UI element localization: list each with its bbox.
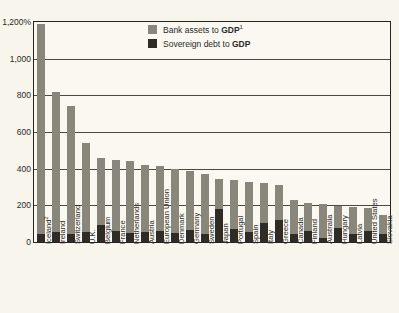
- bar-group: [304, 22, 312, 242]
- y-tick-label-400: 400: [0, 164, 31, 174]
- bar-group: [186, 22, 194, 242]
- y-tick-label-600: 600: [0, 127, 31, 137]
- bank-assets-sovereign-debt-chart: 02004006008001,0001,200% Bank assets to …: [0, 0, 399, 313]
- y-tick-label-200: 200: [0, 200, 31, 210]
- bar-group: [245, 22, 253, 242]
- bar-group: [37, 22, 45, 242]
- y-tick-label-0: 0: [0, 237, 31, 247]
- bar-group: [379, 22, 387, 242]
- bar-bank-assets: [82, 143, 90, 242]
- legend-label-sovereign-debt: Sovereign debt to GDP: [163, 39, 250, 49]
- bar-bank-assets: [52, 92, 60, 242]
- bar-group: [215, 22, 223, 242]
- bar-group: [171, 22, 179, 242]
- y-tick-label-1200: 1,200%: [0, 17, 31, 27]
- bar-group: [112, 22, 120, 242]
- bar-group: [290, 22, 298, 242]
- bar-group: [82, 22, 90, 242]
- bar-bank-assets: [37, 24, 45, 242]
- bar-group: [52, 22, 60, 242]
- x-axis-labels: Iceland2IrelandSwitzerlandU.K.BelgiumFra…: [34, 244, 390, 313]
- chart-legend: Bank assets to GDP1 Sovereign debt to GD…: [148, 24, 250, 49]
- bar-group: [141, 22, 149, 242]
- bar-group: [260, 22, 268, 242]
- legend-item-sovereign-debt: Sovereign debt to GDP: [148, 39, 250, 49]
- bar-group: [230, 22, 238, 242]
- bar-group: [319, 22, 327, 242]
- legend-swatch-bank-icon: [148, 25, 157, 34]
- legend-swatch-sovereign-icon: [148, 39, 157, 48]
- y-tick-label-800: 800: [0, 90, 31, 100]
- bar-group: [349, 22, 357, 242]
- y-tick-label-1000: 1,000: [0, 54, 31, 64]
- bars-layer: [34, 22, 390, 242]
- bar-group: [97, 22, 105, 242]
- bar-group: [275, 22, 283, 242]
- bar-group: [334, 22, 342, 242]
- legend-item-bank-assets: Bank assets to GDP1: [148, 24, 250, 35]
- legend-label-bank-assets: Bank assets to GDP1: [163, 24, 243, 35]
- bar-group: [201, 22, 209, 242]
